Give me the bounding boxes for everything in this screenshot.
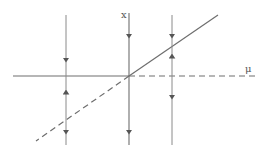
stable-branch-x-mu: [129, 15, 218, 76]
mu-axis-label: μ: [245, 63, 252, 74]
bifurcation-diagram: x μ: [0, 0, 267, 154]
x-axis-label: x: [121, 9, 127, 20]
unstable-branch-x-mu: [36, 76, 129, 141]
